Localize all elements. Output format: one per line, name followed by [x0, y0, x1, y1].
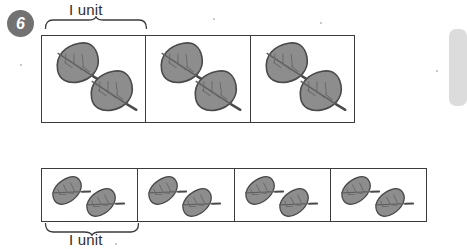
scan-speck: [115, 243, 117, 245]
leaf-icon: [50, 41, 104, 89]
leaf-icon: [275, 187, 315, 217]
leaf-icon: [178, 187, 218, 217]
top-cell-3: [251, 36, 354, 122]
leaf-icon: [48, 175, 88, 205]
scan-speck: [213, 18, 215, 20]
leaf-icon: [84, 69, 138, 117]
bottom-row-box: [41, 168, 427, 222]
question-number-badge: 6: [7, 10, 34, 37]
bottom-cell-2: [138, 169, 234, 221]
top-brace: [44, 16, 148, 29]
leaf-icon: [259, 41, 313, 89]
scan-speck: [20, 64, 22, 66]
page-edge-tab: [449, 29, 467, 106]
leaf-icon: [371, 187, 411, 217]
leaf-icon: [241, 175, 281, 205]
top-cell-2: [146, 36, 250, 122]
leaf-icon: [337, 175, 377, 205]
scan-speck: [436, 70, 438, 72]
top-cell-1: [42, 36, 146, 122]
leaf-icon: [144, 175, 184, 205]
leaf-icon: [293, 69, 347, 117]
top-row-box: [41, 35, 355, 123]
bottom-cell-4: [331, 169, 426, 221]
leaf-icon: [188, 69, 242, 117]
bottom-unit-label: I unit: [69, 231, 103, 248]
scan-speck: [320, 22, 322, 24]
bottom-cell-3: [235, 169, 331, 221]
leaf-icon: [82, 187, 122, 217]
leaf-icon: [154, 41, 208, 89]
bottom-cell-1: [42, 169, 138, 221]
